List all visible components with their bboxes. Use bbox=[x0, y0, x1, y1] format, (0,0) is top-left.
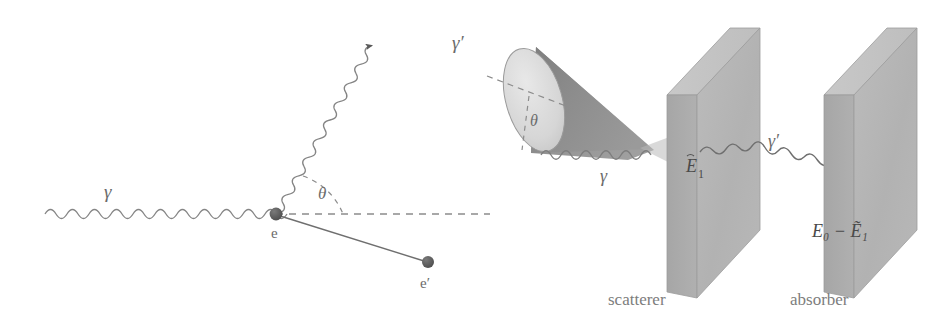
incoming-photon-wave bbox=[45, 210, 287, 219]
left-panel-group: γ γ′ e e′ θ bbox=[45, 32, 490, 291]
label-scatterer-energy-sub: 1 bbox=[698, 167, 704, 181]
label-electron: e bbox=[271, 225, 278, 241]
caption-absorber: absorber bbox=[790, 290, 849, 309]
recoil-electron-line bbox=[277, 215, 424, 261]
label-absorber-energy: E₀ − Ẽ₁ bbox=[811, 221, 868, 241]
right-panel-group: θ γ γ′ E 1 bbox=[487, 28, 917, 309]
label-incoming-photon-left: γ bbox=[104, 181, 112, 202]
label-scattering-angle: θ bbox=[318, 184, 326, 203]
label-scatterer-energy-base: E bbox=[685, 156, 697, 176]
figure-canvas: γ γ′ e e′ θ θ γ bbox=[0, 0, 952, 320]
label-cone-angle: θ bbox=[530, 112, 538, 129]
label-recoil-electron: e′ bbox=[420, 275, 430, 291]
recoil-electron-dot bbox=[422, 256, 434, 268]
absorber-side-face bbox=[824, 95, 854, 298]
scatterer-side-face bbox=[667, 95, 697, 298]
physics-figure: γ γ′ e e′ θ θ γ bbox=[0, 0, 952, 320]
electron-vertex-dot bbox=[270, 208, 283, 221]
caption-scatterer: scatterer bbox=[608, 290, 666, 309]
label-scattered-photon-right: γ′ bbox=[768, 131, 780, 151]
label-scattered-photon-left: γ′ bbox=[452, 32, 464, 53]
scatterer-slab bbox=[667, 28, 760, 298]
label-absorber-energy-text: E₀ − Ẽ₁ bbox=[811, 221, 868, 241]
absorber-slab bbox=[824, 28, 917, 298]
label-incoming-photon-right: γ bbox=[600, 166, 608, 186]
